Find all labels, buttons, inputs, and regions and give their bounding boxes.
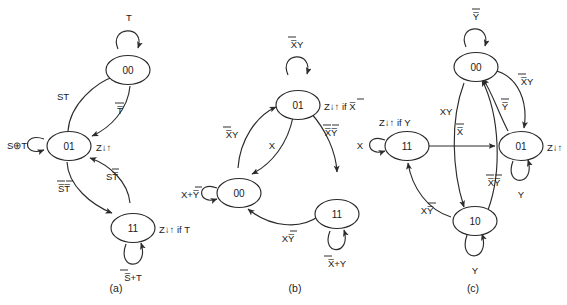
edge-a-00-to-01 [92,86,130,136]
edge-label-c-00-loop: Y̅ [473,11,480,22]
state-label-c-00: 00 [470,62,482,73]
edge-label-c-10-to-00: X̅Y̅ [488,177,501,188]
edge-label-b-11-loop: X̅+Y [328,258,347,269]
self-loop-c-00 [464,29,486,47]
edge-label-b-01-to-00: X [269,140,276,151]
edge-label-c-10-to-11: XY̅ [421,205,434,216]
edge-label-b-11-to-00: XY̅ [282,233,295,244]
self-loop-c-01 [511,160,529,180]
self-loop-c-11 [370,138,385,152]
edge-label-c-00-to-10: XY [440,106,453,117]
edge-label-b-01-to-11: X̅Y̅ [325,127,338,138]
edge-b-00-to-01 [238,107,276,168]
edge-label-c-00-to-01: X̅Y [521,76,534,87]
edge-label-a-11-loop: S̅+T [124,272,142,283]
output-label-b-01: Z↓↑ if X̅ [324,101,356,112]
state-label-a-11: 11 [128,223,139,234]
self-loop-b-00 [202,186,217,200]
caption-b: (b) [289,282,302,294]
self-loop-b-11 [328,230,345,250]
edge-label-c-10-loop: Y [472,265,479,276]
diagram-c: Y̅ X̅Y Y̅ X̅ XY X̅Y̅ XY̅ [357,9,562,294]
self-loop-a-00 [116,31,139,49]
output-label-a-11: Z↓↑ if T [159,224,190,235]
state-label-b-00: 00 [233,188,245,199]
edge-c-00-to-10 [454,83,464,207]
output-label-c-01: Z↓↑ [547,142,562,153]
state-label-c-11: 11 [402,141,413,152]
edge-b-11-to-00 [248,209,319,225]
state-label-b-01: 01 [292,100,304,111]
edge-label-a-00-to-01: T̅ [117,105,123,116]
diagram-a: T ST T̅ S⊕T S̅T̅ ST̅ S̅+T [7,12,190,295]
edge-b-01-to-11 [311,113,337,172]
state-label-a-01: 01 [63,141,75,152]
edge-label-b-00-loop: X+Y̅ [181,189,200,200]
diagram-canvas: T ST T̅ S⊕T S̅T̅ ST̅ S̅+T [0,0,567,305]
edge-label-c-01-loop: Y [518,189,525,200]
self-loop-b-01 [286,57,308,75]
self-loop-c-10 [465,234,483,256]
output-label-a-01: Z↓↑ [96,142,111,153]
output-label-c-11: Z↓↑ if Y [379,117,411,128]
edge-label-b-01-loop: X̅Y [291,39,304,50]
state-label-a-00: 00 [122,65,134,76]
caption-c: (c) [467,282,479,294]
edge-c-10-to-00 [482,80,497,210]
edge-label-a-11-to-01: ST̅ [106,171,118,182]
edge-label-a-01-to-00: ST [57,91,69,102]
state-label-b-11: 11 [332,209,343,220]
state-label-c-01: 01 [515,141,527,152]
edge-a-01-to-00 [68,76,116,131]
self-loop-a-11 [124,243,142,264]
state-label-c-10: 10 [469,216,481,227]
state-diagram-figure: T ST T̅ S⊕T S̅T̅ ST̅ S̅+T [0,0,567,305]
diagram-b: X̅Y X̅Y X X̅Y̅ XY̅ X+Y̅ X̅+Y [181,37,364,294]
self-loop-a-01 [28,138,45,152]
edge-label-c-11-to-01: X̅ [457,126,464,137]
edge-label-a-01-loop: S⊕T [7,140,27,151]
edge-label-a-00-loop: T [126,12,132,23]
edge-label-c-11-loop: X [357,140,364,151]
edge-label-c-01-to-00: Y̅ [502,101,509,112]
edge-label-b-00-to-01: X̅Y [226,129,239,140]
caption-a: (a) [110,282,123,294]
edge-label-a-01-to-11: S̅T̅ [58,183,70,194]
